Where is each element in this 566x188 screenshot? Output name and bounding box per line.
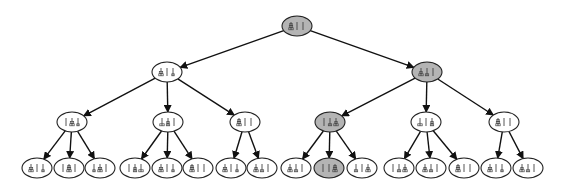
tree-node[interactable] bbox=[152, 62, 182, 82]
tree-node[interactable] bbox=[416, 158, 446, 178]
edge-n1-n3 bbox=[84, 78, 155, 116]
hanoi-search-tree bbox=[0, 0, 566, 188]
edge-n2-n8 bbox=[438, 79, 494, 115]
edges bbox=[44, 31, 523, 160]
edge-n0-n1 bbox=[180, 31, 284, 68]
edge-n0-n2 bbox=[310, 31, 414, 68]
edge-n3-n9 bbox=[44, 131, 65, 159]
tree-node[interactable] bbox=[347, 158, 377, 178]
tree-node[interactable] bbox=[282, 16, 312, 36]
tree-node[interactable] bbox=[85, 158, 115, 178]
edge-n3-n11 bbox=[78, 131, 95, 158]
edge-n2-n7 bbox=[426, 82, 427, 112]
edge-n6-n18 bbox=[329, 132, 330, 158]
tree-node[interactable] bbox=[513, 158, 543, 178]
tree-node[interactable] bbox=[57, 112, 87, 132]
tree-node[interactable] bbox=[183, 158, 213, 178]
tree-node[interactable] bbox=[481, 158, 511, 178]
tree-node[interactable] bbox=[54, 158, 84, 178]
edge-n1-n4 bbox=[167, 82, 168, 112]
tree-node[interactable] bbox=[281, 158, 311, 178]
tree-node[interactable] bbox=[152, 158, 182, 178]
edge-n6-n19 bbox=[336, 131, 355, 159]
tree-node[interactable] bbox=[230, 112, 260, 132]
edge-n1-n5 bbox=[178, 79, 234, 115]
edge-n8-n24 bbox=[509, 131, 523, 158]
tree-node[interactable] bbox=[22, 158, 52, 178]
edge-n2-n6 bbox=[342, 78, 415, 116]
tree-node[interactable] bbox=[489, 112, 519, 132]
tree-node[interactable] bbox=[314, 158, 344, 178]
tree-node[interactable] bbox=[315, 112, 345, 132]
edge-n3-n10 bbox=[70, 132, 72, 158]
tree-node[interactable] bbox=[384, 158, 414, 178]
tree-node[interactable] bbox=[216, 158, 246, 178]
edge-n7-n22 bbox=[433, 131, 457, 159]
tree-node[interactable] bbox=[449, 158, 479, 178]
edge-n5-n15 bbox=[234, 132, 242, 158]
tree-node[interactable] bbox=[411, 112, 441, 132]
edge-n4-n13 bbox=[167, 132, 168, 158]
tree-node[interactable] bbox=[120, 158, 150, 178]
tree-node[interactable] bbox=[412, 62, 442, 82]
edge-n5-n16 bbox=[249, 132, 259, 159]
edge-n7-n20 bbox=[404, 131, 420, 158]
edge-n8-n23 bbox=[498, 132, 503, 158]
tree-node[interactable] bbox=[153, 112, 183, 132]
edge-n4-n12 bbox=[141, 131, 161, 159]
edge-n7-n21 bbox=[427, 132, 430, 158]
edge-n6-n17 bbox=[303, 131, 324, 159]
tree-node[interactable] bbox=[247, 158, 277, 178]
edge-n4-n14 bbox=[174, 131, 192, 159]
